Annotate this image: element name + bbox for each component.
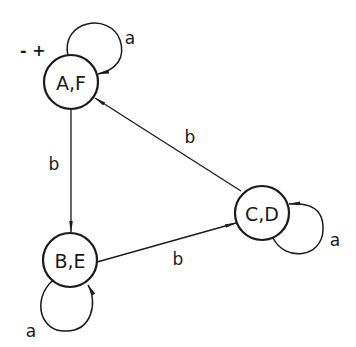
edge-label-cd-cd: a	[330, 230, 340, 250]
state-label-af: A,F	[56, 72, 86, 94]
edge-label-af-be: b	[49, 154, 60, 174]
state-node-be: B,E	[43, 233, 97, 287]
state-label-cd: C,D	[245, 203, 279, 225]
state-label-be: B,E	[54, 250, 85, 272]
start-marker: - +	[20, 41, 46, 60]
edge-label-be-cd: b	[173, 249, 184, 269]
edge-cd-af: b	[95, 98, 241, 191]
edge-af-be: b	[49, 109, 71, 232]
edge-be-be-loop: a	[26, 281, 93, 341]
edge-label-af-af: a	[125, 28, 135, 48]
edge-label-be-be: a	[26, 321, 36, 341]
edge-label-cd-af: b	[185, 127, 196, 147]
state-node-af: A,F	[44, 55, 98, 109]
state-diagram: - + a b a b a b	[0, 0, 356, 347]
state-node-cd: C,D	[235, 186, 289, 240]
edge-be-cd: b	[97, 223, 236, 269]
